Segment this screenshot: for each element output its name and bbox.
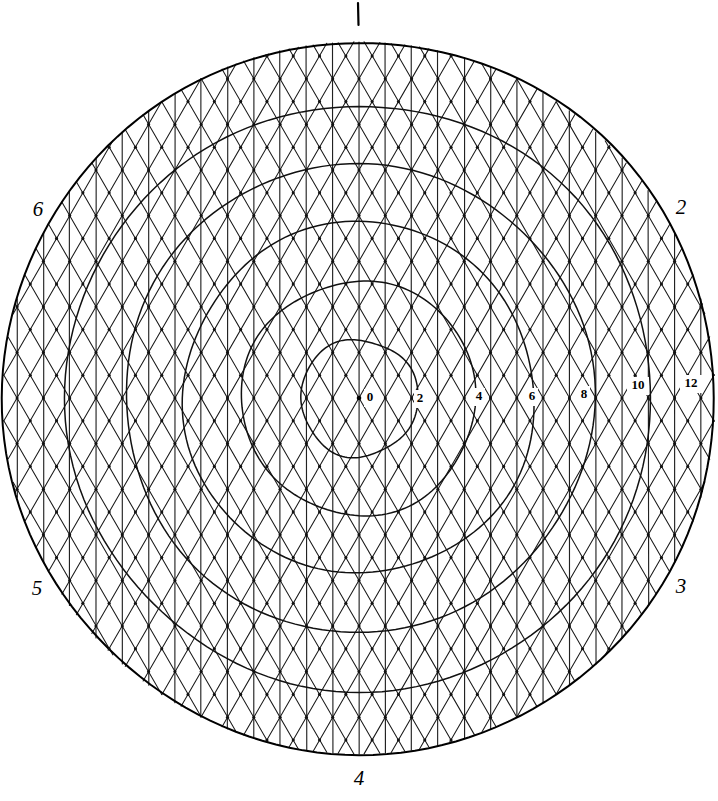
lattice-node-dot xyxy=(555,328,558,331)
lattice-node-dot xyxy=(555,237,558,240)
lattice-node-dot xyxy=(42,488,45,491)
lattice-node-dot xyxy=(568,579,571,582)
lattice-node-dot xyxy=(200,488,203,491)
lattice-node-dot xyxy=(542,168,545,171)
lattice-node-dot xyxy=(371,100,374,103)
lattice-node-dot xyxy=(331,168,334,171)
lattice-node-dot xyxy=(252,442,255,445)
lattice-node-dot xyxy=(410,168,413,171)
lattice-node-dot xyxy=(384,579,387,582)
lattice-node-dot xyxy=(594,533,597,536)
lattice-node-dot xyxy=(42,260,45,263)
lattice-node-dot xyxy=(502,328,505,331)
lattice-node-dot xyxy=(568,670,571,673)
lattice-node-dot xyxy=(397,374,400,377)
lattice-node-dot xyxy=(252,168,255,171)
lattice-node-dot xyxy=(476,146,479,149)
lattice-node-dot xyxy=(344,54,347,57)
lattice-node-dot xyxy=(134,647,137,650)
lattice-node-dot xyxy=(305,351,308,354)
lattice-node-dot xyxy=(450,647,453,650)
lattice-node-dot xyxy=(318,602,321,605)
lattice-node-dot xyxy=(581,510,584,513)
lattice-node-dot xyxy=(450,282,453,285)
lattice-node-dot xyxy=(187,328,190,331)
lattice-node-dot xyxy=(476,237,479,240)
lattice-node-dot xyxy=(252,716,255,719)
lattice-node-dot xyxy=(423,647,426,650)
lattice-node-dot xyxy=(187,419,190,422)
lattice-node-dot xyxy=(568,305,571,308)
lattice-node-dot xyxy=(528,465,531,468)
lattice-node-dot xyxy=(647,488,650,491)
lattice-node-dot xyxy=(160,647,163,650)
lattice-node-dot xyxy=(55,237,58,240)
lattice-node-dot xyxy=(410,716,413,719)
lattice-node-dot xyxy=(279,533,282,536)
lattice-node-dot xyxy=(620,396,623,399)
lattice-node-dot xyxy=(607,282,610,285)
lattice-node-dot xyxy=(147,305,150,308)
lattice-node-dot xyxy=(134,602,137,605)
lattice-node-dot xyxy=(252,533,255,536)
lattice-node-dot xyxy=(634,419,637,422)
lattice-node-dot xyxy=(555,282,558,285)
lattice-node-dot xyxy=(292,556,295,559)
lattice-node-dot xyxy=(108,146,111,149)
lattice-node-dot xyxy=(542,260,545,263)
lattice-node-dot xyxy=(331,488,334,491)
chart-canvas: 024681012 23456 xyxy=(0,0,718,801)
radial-tick-label-text: 8 xyxy=(581,386,588,401)
lattice-node-dot xyxy=(410,533,413,536)
lattice-node-dot xyxy=(16,305,19,308)
lattice-node-dot xyxy=(279,305,282,308)
lattice-node-dot xyxy=(239,510,242,513)
lattice-node-dot xyxy=(265,100,268,103)
lattice-node-dot xyxy=(160,328,163,331)
lattice-node-dot xyxy=(187,602,190,605)
lattice-node-dot xyxy=(160,191,163,194)
lattice-node-dot xyxy=(200,442,203,445)
lattice-node-dot xyxy=(450,100,453,103)
lattice-node-dot xyxy=(660,282,663,285)
radial-tick-label-text: 12 xyxy=(685,375,698,390)
lattice-node-dot xyxy=(81,510,84,513)
lattice-node-dot xyxy=(384,351,387,354)
lattice-node-dot xyxy=(121,260,124,263)
lattice-node-dot xyxy=(147,533,150,536)
lattice-node-dot xyxy=(121,351,124,354)
lattice-node-dot xyxy=(397,693,400,696)
lattice-node-dot xyxy=(450,54,453,57)
lattice-node-dot xyxy=(160,510,163,513)
lattice-node-dot xyxy=(542,670,545,673)
lattice-node-dot xyxy=(42,442,45,445)
lattice-node-dot xyxy=(371,54,374,57)
lattice-node-dot xyxy=(239,647,242,650)
lattice-node-dot xyxy=(607,237,610,240)
lattice-node-dot xyxy=(265,465,268,468)
lattice-node-dot xyxy=(213,282,216,285)
lattice-node-dot xyxy=(68,396,71,399)
lattice-node-dot xyxy=(620,442,623,445)
lattice-node-dot xyxy=(226,123,229,126)
lattice-node-dot xyxy=(476,191,479,194)
lattice-node-dot xyxy=(542,488,545,491)
lattice-node-dot xyxy=(81,328,84,331)
lattice-node-dot xyxy=(213,647,216,650)
lattice-node-dot xyxy=(292,738,295,741)
lattice-node-dot xyxy=(502,100,505,103)
lattice-node-dot xyxy=(252,579,255,582)
lattice-node-dot xyxy=(397,510,400,513)
lattice-node-dot xyxy=(410,442,413,445)
radial-tick-label-12: 12 xyxy=(680,375,702,393)
lattice-node-dot xyxy=(463,260,466,263)
lattice-node-dot xyxy=(463,396,466,399)
lattice-node-dot xyxy=(607,146,610,149)
lattice-node-dot xyxy=(371,191,374,194)
lattice-node-dot xyxy=(489,123,492,126)
lattice-node-dot xyxy=(555,556,558,559)
lattice-node-dot xyxy=(634,556,637,559)
lattice-node-dot xyxy=(489,624,492,627)
lattice-node-dot xyxy=(450,146,453,149)
lattice-node-dot xyxy=(607,465,610,468)
